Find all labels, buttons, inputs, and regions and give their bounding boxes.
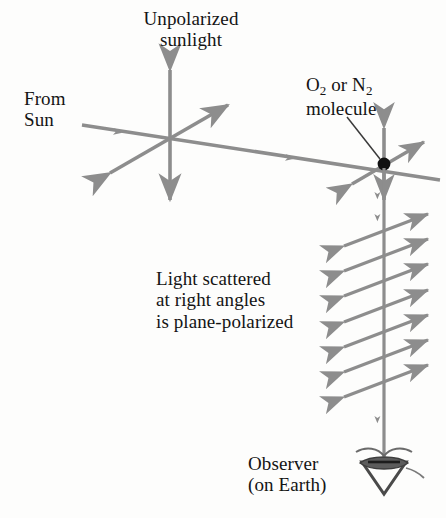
label-molecule-nitrogen-subscript: 2 [366, 83, 373, 98]
polarization-arrow-6 [344, 340, 428, 372]
diagram-canvas [0, 0, 446, 518]
polarization-arrows-group [344, 214, 428, 397]
molecule-leader-line [347, 117, 380, 159]
label-from-sun-line1: From [24, 88, 66, 109]
label-light-scattered: Light scatteredat right anglesis plane-p… [156, 268, 293, 332]
polarization-arrow-2 [344, 239, 428, 271]
label-scattered-line1: Light scattered [156, 268, 271, 289]
sun-ray-group [82, 125, 440, 180]
label-from-sun-line2: Sun [24, 109, 54, 130]
label-unpolarized-line1: Unpolarized [143, 8, 238, 29]
beam-direction-arrow-2 [374, 214, 380, 221]
polarization-arrow-1 [344, 214, 428, 246]
sun-ray-line [82, 125, 440, 180]
beam-direction-arrow-1 [374, 192, 380, 199]
label-molecule-line2: molecule [306, 98, 376, 119]
label-molecule-oxygen: O [306, 74, 320, 95]
label-unpolarized-line2: sunlight [160, 29, 222, 50]
label-observer: Observer(on Earth) [248, 453, 327, 496]
observer-eye-icon [356, 449, 424, 494]
unpolarized-oscillation-group [110, 70, 228, 200]
polarization-arrow-5 [344, 315, 428, 347]
label-scattered-line2: at right angles [156, 289, 265, 310]
scattering-polarization-figure: Unpolarizedsunlight FromSun O2 or N2mole… [0, 0, 446, 518]
label-observer-line2: (on Earth) [248, 474, 327, 495]
polarization-arrow-3 [344, 264, 428, 296]
label-unpolarized-sunlight: Unpolarizedsunlight [116, 8, 266, 51]
observer-eye-lash-right [406, 468, 424, 478]
polarization-arrow-4 [344, 290, 428, 322]
label-molecule: O2 or N2molecule [306, 74, 376, 119]
label-scattered-line3: is plane-polarized [156, 311, 293, 332]
label-observer-line1: Observer [248, 453, 318, 474]
scattered-beam-group [374, 168, 384, 462]
observer-eye-brow-right [384, 449, 412, 456]
label-from-sun: FromSun [24, 88, 66, 131]
observer-eye-brow-left [356, 449, 384, 456]
label-molecule-conjunction: or N [326, 74, 366, 95]
beam-direction-arrow-3 [374, 416, 380, 423]
polarization-arrow-7 [344, 365, 428, 397]
